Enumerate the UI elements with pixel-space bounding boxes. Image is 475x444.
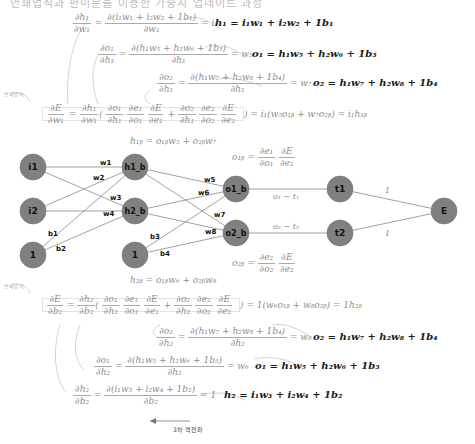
def-o1-bottom: o₁ = h₁w₅ + h₂w₆ + 1b₃ — [255, 360, 380, 371]
main-eq-dE-db2: ∂E∂b₂ = ∂h₂∂b₂( ∂o₁∂h₂ ∂e₁∂o₁ ∂E∂e₁ + ∂o… — [42, 294, 362, 317]
error-label-e1: o₁ − t₁ — [273, 192, 299, 201]
node-label-i1: i1 — [28, 162, 37, 172]
error-label-e2: o₂ − t₂ — [273, 222, 299, 231]
node-label-t1: t1 — [335, 184, 346, 194]
weight-w1: w1 — [100, 159, 111, 167]
weight-w8: w8 — [205, 228, 216, 236]
weight-b1: b1 — [48, 230, 58, 238]
node-label-bias-hidden: 1 — [132, 250, 138, 260]
node-label-t2: t2 — [335, 228, 346, 238]
node-label-E: E — [441, 206, 447, 216]
weight-w7: w7 — [214, 211, 225, 219]
eq-dh2-db2: ∂h₂∂b₂ = ∂(i₁w₃ + i₂w₄ + 1b₂)∂b₂ = 1 — [73, 384, 216, 407]
lhs-box-bottom: ∂E∂b₂ = ∂h₂∂b₂( ∂o₁∂h₂ ∂e₁∂o₁ ∂E∂e₁ + ∂o… — [42, 298, 240, 312]
node-label-bias-input: 1 — [30, 250, 36, 260]
node-label-h1b: h1_b — [125, 163, 146, 172]
weight-b2: b2 — [56, 245, 66, 253]
weight-w4: w4 — [103, 210, 114, 218]
weight-w5: w5 — [204, 176, 215, 184]
def-o2-bottom: o₂ = h₁w₇ + h₂w₈ + 1b₄ — [313, 331, 438, 342]
node-label-o1b: o1_b — [226, 185, 247, 194]
weight-w2: w2 — [93, 174, 104, 182]
def-h2: h₂ = i₁w₃ + i₂w₄ + 1b₂ — [224, 389, 342, 400]
chain-rule-label-bottom: 연쇄법칙 — [4, 282, 24, 289]
backprop-label: 3차 역전파 — [173, 425, 203, 434]
eq-do2-dh2: ∂o₂∂h₂ = ∂(h₁w₇ + h₂w₈ + 1b₄)∂h₂ = w₈ — [157, 326, 312, 349]
weight-one-bottom: 1 — [385, 229, 390, 238]
weight-w6: w6 — [198, 189, 209, 197]
weight-w3: w3 — [110, 194, 121, 202]
weight-b3: b3 — [150, 233, 160, 241]
node-label-h2b: h2_b — [125, 207, 146, 216]
weight-b4: b4 — [160, 250, 170, 258]
node-label-o2b: o2_b — [226, 229, 247, 238]
weight-one-top: 1 — [385, 186, 390, 195]
node-label-i2: i2 — [28, 206, 37, 216]
eq-do1-dh2: ∂o₁∂h₂ = ∂(h₁w₅ + h₂w₆ + 1b₃)∂h₂ = w₆ — [94, 355, 249, 378]
